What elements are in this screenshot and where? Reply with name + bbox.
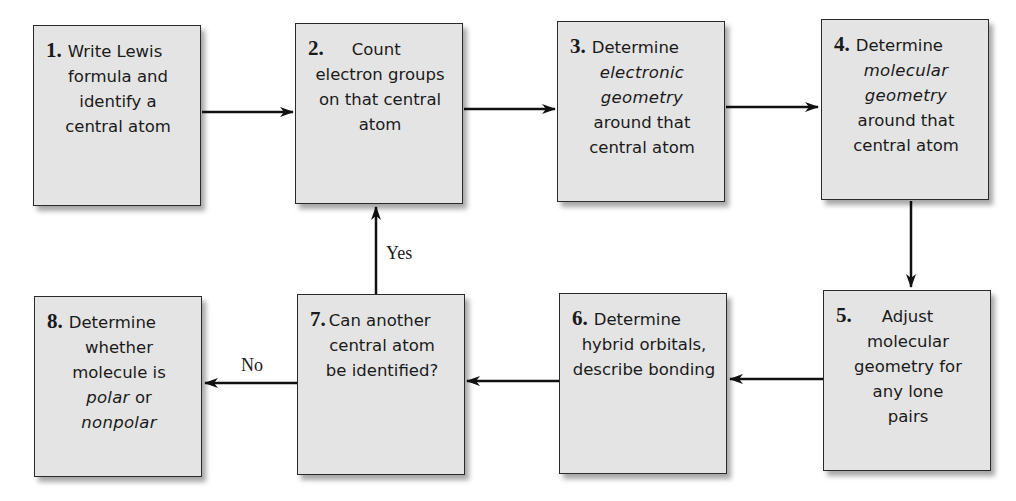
- step-text: or: [135, 388, 152, 407]
- step-7-box: 7.Can another central atom be identified…: [297, 294, 465, 475]
- step-number: 3.: [570, 34, 586, 58]
- step-text: identify a: [46, 89, 190, 114]
- step-text-emphasis: electronic: [570, 60, 714, 85]
- step-text: molecular: [836, 329, 980, 354]
- step-text-emphasis: molecular: [834, 58, 978, 83]
- step-6-box: 6.Determine hybrid orbitals, describe bo…: [559, 293, 727, 474]
- step-2-box: 2.Count electron groups on that central …: [295, 23, 463, 204]
- step-text: central atom: [310, 333, 454, 358]
- step-number: 4.: [834, 32, 850, 56]
- step-text: Write Lewis: [68, 42, 163, 61]
- step-number: 8.: [47, 309, 63, 333]
- step-number: 7.: [310, 307, 326, 331]
- step-text: molecule is: [47, 360, 191, 385]
- step-4-box: 4.Determine molecular geometry around th…: [821, 19, 989, 200]
- vsepr-flowchart: 1.Write Lewis formula and identify a cen…: [0, 0, 1016, 501]
- step-5-box: 5.Adjust molecular geometry for any lone…: [823, 290, 991, 471]
- step-text: geometry for: [836, 354, 980, 379]
- step-text: Determine: [594, 310, 681, 329]
- step-text: central atom: [46, 114, 190, 139]
- step-text: Determine: [69, 313, 156, 332]
- step-8-box: 8.Determine whether molecule is polar or…: [34, 296, 202, 477]
- step-3-box: 3.Determine electronic geometry around t…: [557, 21, 725, 202]
- step-text: Count: [352, 40, 401, 59]
- step-text: formula and: [46, 64, 190, 89]
- step-number: 5.: [836, 303, 852, 327]
- step-text: Determine: [592, 38, 679, 57]
- step-text: describe bonding: [572, 357, 716, 382]
- step-text-emphasis: polar: [86, 388, 130, 407]
- step-text: Adjust: [882, 307, 934, 326]
- step-text: hybrid orbitals,: [572, 332, 716, 357]
- step-text-emphasis: geometry: [570, 85, 714, 110]
- step-text: Can another: [329, 311, 431, 330]
- step-1-box: 1.Write Lewis formula and identify a cen…: [33, 25, 201, 206]
- no-label: No: [241, 355, 263, 376]
- step-number: 6.: [572, 306, 588, 330]
- step-text: Determine: [856, 36, 943, 55]
- step-number: 2.: [308, 36, 324, 60]
- step-text: pairs: [836, 404, 980, 429]
- step-text: atom: [308, 112, 452, 137]
- step-text: electron groups: [308, 62, 452, 87]
- step-text: be identified?: [310, 358, 454, 383]
- step-text: around that: [834, 108, 978, 133]
- step-text: around that: [570, 110, 714, 135]
- step-text-emphasis: geometry: [834, 83, 978, 108]
- step-text: any lone: [836, 379, 980, 404]
- step-text-emphasis: nonpolar: [47, 410, 191, 435]
- step-number: 1.: [46, 38, 62, 62]
- step-text: central atom: [570, 135, 714, 160]
- yes-label: Yes: [386, 243, 412, 264]
- step-text: on that central: [308, 87, 452, 112]
- step-text: whether: [47, 335, 191, 360]
- step-text: central atom: [834, 133, 978, 158]
